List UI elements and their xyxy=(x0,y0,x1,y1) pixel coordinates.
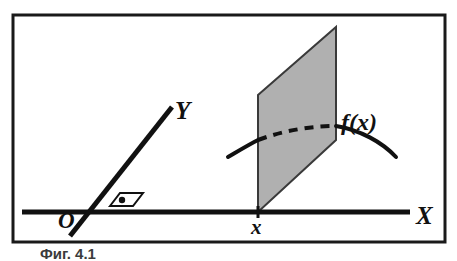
x-axis-label: X xyxy=(415,202,434,229)
x-point-label: x xyxy=(250,215,262,239)
right-angle-dot-icon xyxy=(119,197,125,203)
figure-root: O X Y x f(x) Фиг. 4.1 xyxy=(0,0,457,261)
figure-diagram: O X Y x f(x) xyxy=(0,0,457,261)
figure-frame xyxy=(13,15,445,242)
function-label: f(x) xyxy=(341,109,377,135)
origin-label: O xyxy=(58,208,75,233)
